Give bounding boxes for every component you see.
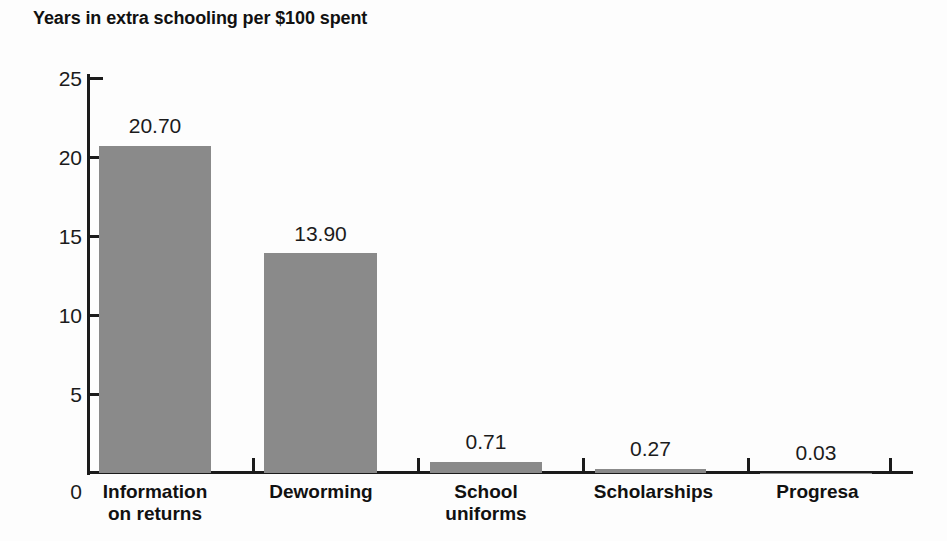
x-label-information-on-returns: Information on returns (95, 481, 215, 526)
bar-scholarships (595, 469, 706, 473)
x-label-deworming: Deworming (262, 481, 380, 503)
chart-figure: Years in extra schooling per $100 spent … (0, 0, 947, 541)
bar-school-uniforms (430, 462, 542, 473)
x-label-line2: uniforms (428, 503, 544, 525)
y-tick-label-20: 20 (36, 147, 82, 168)
x-label-line2: on returns (95, 503, 215, 525)
y-axis-tick-labels: 25 20 15 10 5 0 (0, 0, 82, 541)
y-tick-label-15: 15 (36, 226, 82, 247)
y-tick-label-0: 0 (36, 481, 82, 502)
bar-value-scholarships: 0.27 (595, 438, 706, 459)
x-label-line1: Progresa (776, 481, 858, 502)
x-label-line1: School (454, 481, 517, 502)
x-label-school-uniforms: School uniforms (428, 481, 544, 526)
y-tick-label-25: 25 (36, 68, 82, 89)
x-label-progresa: Progresa (760, 481, 875, 503)
bar-value-deworming: 13.90 (264, 223, 377, 244)
x-label-line1: Deworming (269, 481, 372, 502)
plot-area (89, 78, 913, 473)
bar-value-school-uniforms: 0.71 (430, 431, 542, 452)
bar-value-information-on-returns: 20.70 (99, 115, 211, 136)
x-label-line1: Scholarships (594, 481, 713, 502)
x-label-line1: Information (103, 481, 208, 502)
bar-value-progresa: 0.03 (760, 442, 872, 463)
y-tick-label-5: 5 (36, 384, 82, 405)
x-label-scholarships: Scholarships (586, 481, 721, 503)
bar-deworming (264, 253, 377, 473)
bar-information-on-returns (99, 146, 211, 473)
chart-title: Years in extra schooling per $100 spent (33, 8, 367, 29)
y-tick-label-10: 10 (36, 305, 82, 326)
